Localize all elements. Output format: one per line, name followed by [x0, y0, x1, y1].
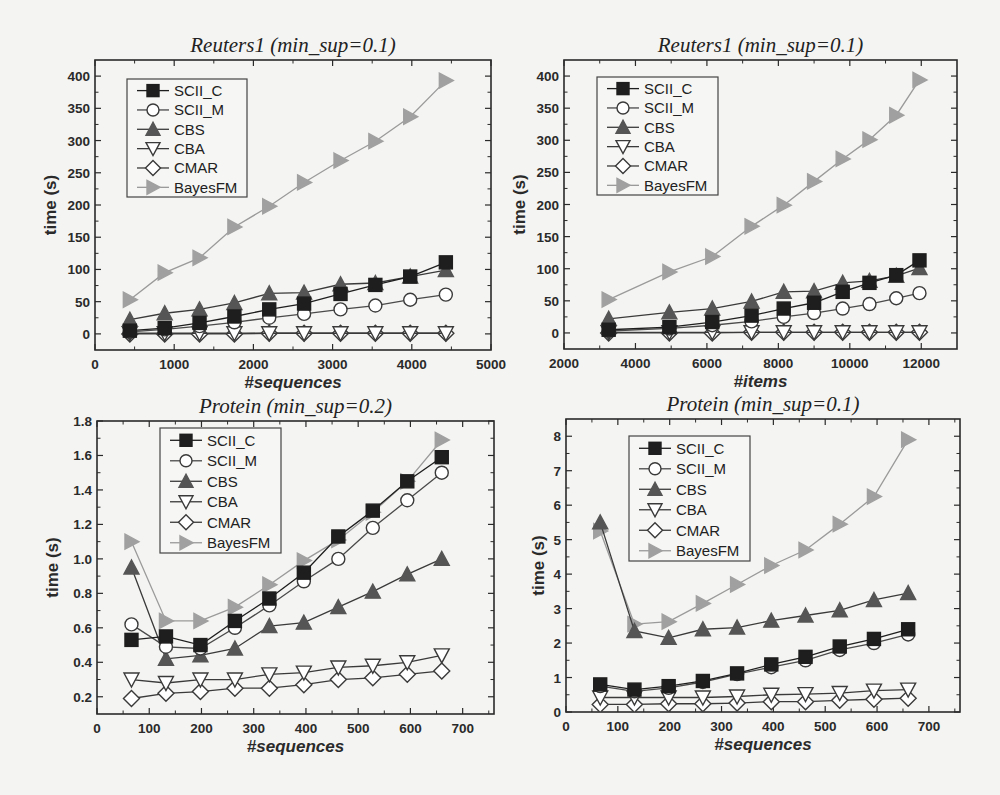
x-tick-label: 600 [866, 719, 889, 734]
y-tick-label: 100 [67, 262, 90, 277]
triangle-right-marker-icon [765, 558, 779, 573]
chart-title: Protein (min_sup=0.1) [665, 392, 859, 416]
series-scii-m [123, 288, 452, 338]
square-marker-icon [617, 83, 629, 95]
x-tick-label: 500 [814, 719, 837, 734]
triangle-right-marker-icon [435, 432, 449, 447]
square-marker-icon [890, 269, 903, 282]
y-tick-label: 150 [536, 230, 559, 245]
legend-item-scii-m: SCII_M [639, 460, 726, 477]
legend-label: SCII_C [207, 432, 256, 449]
legend-label: CBA [644, 138, 675, 155]
square-marker-icon [696, 674, 709, 687]
legend-item-scii-c: SCII_C [607, 80, 693, 97]
square-marker-icon [913, 254, 926, 267]
triangle-right-marker-icon [745, 219, 759, 234]
y-tick-label: 300 [67, 134, 90, 149]
triangle-right-marker-icon [228, 219, 242, 234]
y-tick-label: 400 [536, 69, 559, 84]
legend-label: BayesFM [207, 534, 270, 551]
x-tick-label: 700 [918, 719, 941, 734]
x-tick-label: 1000 [159, 357, 189, 372]
x-tick-label: 2000 [238, 357, 268, 372]
square-marker-icon [180, 434, 192, 446]
diamond-marker-icon [123, 690, 139, 706]
square-marker-icon [228, 310, 241, 323]
x-tick-label: 6000 [692, 356, 722, 371]
y-tick-label: 1.0 [73, 552, 92, 567]
y-tick-label: 50 [75, 295, 90, 310]
square-marker-icon [808, 296, 821, 309]
figure-panel-grid: Reuters1 (min_sup=0.1)010002000300040005… [0, 0, 1000, 795]
y-tick-label: 200 [67, 198, 90, 213]
circle-marker-icon [863, 298, 876, 311]
circle-marker-icon [435, 466, 448, 479]
triangle-up-marker-icon [331, 600, 346, 614]
x-tick-label: 400 [295, 721, 318, 736]
square-marker-icon [158, 322, 171, 335]
legend-item-scii-c: SCII_C [137, 82, 223, 99]
circle-marker-icon [366, 521, 379, 534]
y-tick-label: 350 [67, 101, 90, 116]
legend-label: CBA [676, 501, 707, 518]
triangle-right-marker-icon [808, 174, 822, 189]
x-tick-label: 200 [658, 719, 681, 734]
y-tick-label: 1.2 [73, 517, 92, 532]
legend-label: CMAR [676, 522, 720, 539]
square-marker-icon [123, 324, 136, 337]
square-marker-icon [298, 297, 311, 310]
legend: SCII_CSCII_MCBSCBACMARBayesFM [160, 428, 281, 553]
triangle-right-marker-icon [833, 517, 847, 532]
y-tick-label: 4 [553, 567, 561, 582]
triangle-up-marker-icon [901, 586, 916, 600]
legend-item-scii-c: SCII_C [170, 432, 256, 449]
square-marker-icon [765, 658, 778, 671]
square-marker-icon [799, 650, 812, 663]
triangle-up-marker-icon [124, 560, 139, 574]
triangle-up-marker-icon [296, 615, 311, 629]
square-marker-icon [159, 630, 172, 643]
y-axis-label: time (s) [510, 174, 529, 234]
x-tick-label: 700 [451, 721, 474, 736]
x-tick-label: 5000 [476, 357, 506, 372]
x-tick-label: 500 [347, 721, 370, 736]
y-tick-label: 0.8 [73, 586, 92, 601]
legend: SCII_CSCII_MCBSCBACMARBayesFM [127, 79, 247, 197]
circle-marker-icon [401, 494, 414, 507]
y-tick-label: 150 [67, 230, 90, 245]
y-tick-label: 350 [536, 101, 559, 116]
square-marker-icon [194, 639, 207, 652]
chart-reuters1-items: Reuters1 (min_sup=0.1)200040006000800010… [510, 33, 958, 391]
legend-label: BayesFM [676, 542, 739, 559]
y-tick-label: 7 [553, 464, 561, 479]
triangle-up-marker-icon [400, 567, 415, 581]
square-marker-icon [125, 633, 138, 646]
legend-item-scii-m: SCII_M [607, 99, 694, 116]
x-tick-label: 3000 [318, 357, 348, 372]
square-marker-icon [147, 85, 159, 97]
x-tick-label: 0 [93, 721, 101, 736]
square-marker-icon [369, 278, 382, 291]
y-tick-label: 0 [551, 326, 559, 341]
x-axis-label: #sequences [714, 735, 811, 754]
square-marker-icon [836, 285, 849, 298]
legend-label: BayesFM [644, 177, 707, 194]
chart-protein-minsup-0.1: Protein (min_sup=0.1)0100200300400500600… [529, 392, 961, 754]
triangle-right-marker-icon [902, 432, 916, 447]
y-tick-label: 250 [67, 166, 90, 181]
x-tick-label: 8000 [763, 356, 793, 371]
legend-label: CBS [207, 473, 238, 490]
square-marker-icon [662, 680, 675, 693]
triangle-right-marker-icon [731, 577, 745, 592]
triangle-right-marker-icon [369, 134, 383, 149]
x-tick-label: 400 [762, 719, 785, 734]
y-tick-label: 0.4 [73, 655, 92, 670]
series-cmar [123, 663, 449, 707]
legend-label: CMAR [644, 157, 688, 174]
square-marker-icon [649, 442, 661, 454]
triangle-right-marker-icon [799, 542, 813, 557]
series-scii-c [123, 256, 452, 337]
square-marker-icon [602, 323, 615, 336]
circle-marker-icon [439, 288, 452, 301]
circle-marker-icon [649, 463, 661, 475]
